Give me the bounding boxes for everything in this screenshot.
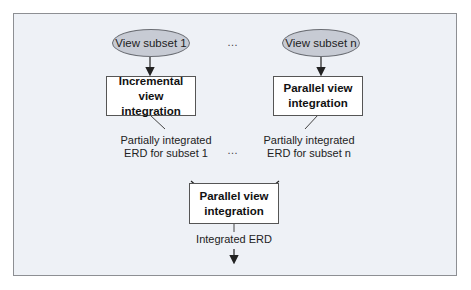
box-line: Incremental view — [107, 74, 195, 104]
label-line: Partially integrated — [106, 134, 226, 147]
incremental-view-integration-box: Incremental view integration — [106, 76, 196, 116]
view-subset-1-node: View subset 1 — [112, 29, 190, 57]
box-line: integration — [199, 204, 268, 219]
partial-erd-n-label: Partially integrated ERD for subset n — [249, 134, 369, 160]
label-line: ERD for subset n — [249, 147, 369, 160]
ellipsis-top: … — [227, 36, 239, 48]
box-line: integration — [283, 96, 352, 111]
ellipsis-middle: … — [227, 144, 239, 156]
label-line: ERD for subset 1 — [106, 147, 226, 160]
view-subset-n-label: View subset n — [285, 37, 356, 49]
box-line: integration — [107, 104, 195, 119]
parallel-view-integration-top-box: Parallel view integration — [273, 76, 363, 116]
view-subset-1-label: View subset 1 — [115, 37, 186, 49]
label-line: Partially integrated — [249, 134, 369, 147]
parallel-view-integration-bottom-box: Parallel view integration — [189, 183, 279, 224]
box-line: Parallel view — [199, 189, 268, 204]
view-subset-n-node: View subset n — [282, 29, 360, 57]
partial-erd-1-label: Partially integrated ERD for subset 1 — [106, 134, 226, 160]
box-line: Parallel view — [283, 81, 352, 96]
integrated-erd-label: Integrated ERD — [174, 233, 294, 246]
